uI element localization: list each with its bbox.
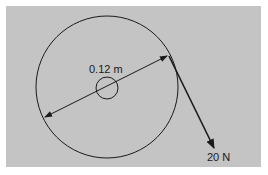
force-label: 20 N — [207, 151, 230, 163]
pulley-hub-circle — [96, 77, 118, 99]
pulley-outer-circle — [36, 16, 178, 158]
diameter-label: 0.12 m — [89, 63, 123, 75]
force-arrow — [169, 56, 214, 148]
pulley-diagram: 0.12 m 20 N — [0, 0, 268, 175]
